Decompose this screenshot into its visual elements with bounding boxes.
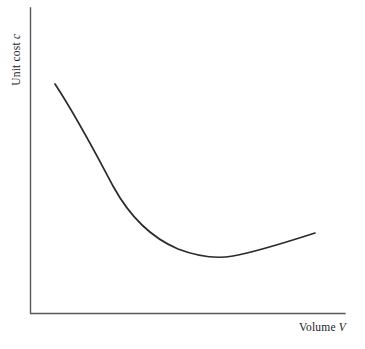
chart-plot-area (0, 0, 365, 349)
x-axis-label-variable: V (339, 321, 346, 333)
unit-cost-chart-figure: Unit cost c Volume V (0, 0, 365, 349)
y-axis-label: Unit cost c (11, 17, 23, 103)
chart-axes-lines (31, 8, 346, 314)
y-axis-label-variable: c (10, 34, 22, 39)
y-axis-label-text: Unit cost (10, 42, 22, 86)
x-axis-label-text: Volume (299, 321, 336, 333)
unit-cost-curve (55, 84, 315, 257)
x-axis-label: Volume V (299, 322, 346, 334)
